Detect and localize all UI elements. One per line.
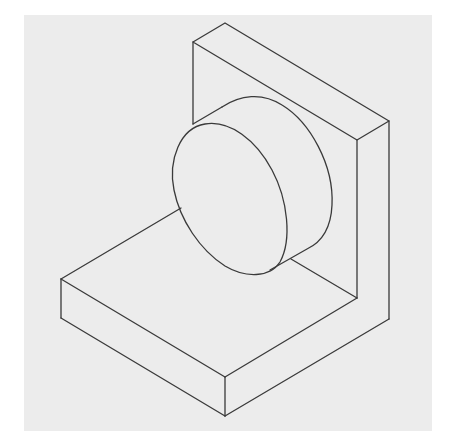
drawing-background: [24, 15, 432, 431]
isometric-drawing: [0, 0, 459, 447]
